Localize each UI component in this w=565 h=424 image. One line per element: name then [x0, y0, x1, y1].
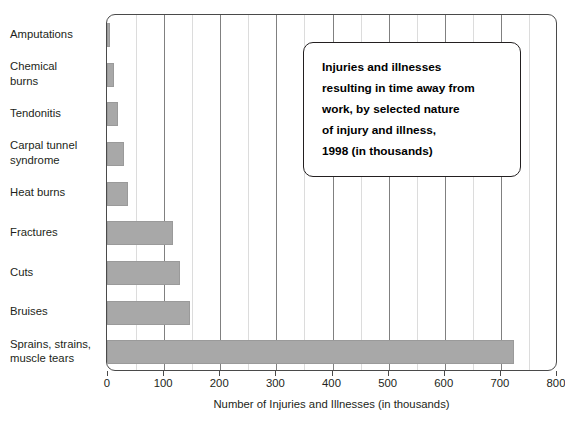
bar-row — [107, 182, 556, 206]
x-tick-700 — [500, 371, 501, 376]
x-tick-label-700: 700 — [490, 377, 509, 389]
bar-row — [107, 301, 556, 325]
bar — [107, 102, 118, 126]
bar-row — [107, 221, 556, 245]
x-tick-label-0: 0 — [104, 377, 110, 389]
bar — [107, 221, 173, 245]
bar — [107, 301, 190, 325]
bar-row — [107, 340, 556, 364]
bar — [107, 63, 114, 87]
category-label: Cuts — [10, 265, 106, 280]
category-label: Heat burns — [10, 185, 106, 200]
category-label: Tendonitis — [10, 106, 106, 121]
x-tick-label-800: 800 — [547, 377, 565, 389]
bar — [107, 142, 124, 166]
x-tick-400 — [332, 371, 333, 376]
x-tick-label-600: 600 — [434, 377, 453, 389]
bar — [107, 261, 180, 285]
x-tick-0 — [107, 371, 108, 376]
category-label: Sprains, strains, muscle tears — [10, 337, 106, 366]
bar — [107, 182, 128, 206]
x-tick-label-100: 100 — [154, 377, 173, 389]
x-tick-100 — [163, 371, 164, 376]
x-tick-300 — [275, 371, 276, 376]
chart-title-box: Injuries and illnessesresulting in time … — [303, 42, 521, 177]
x-axis-title: Number of Injuries and Illnesses (in tho… — [106, 398, 557, 410]
category-label: Bruises — [10, 304, 106, 319]
x-tick-500 — [388, 371, 389, 376]
x-axis-tick-labels: 0100200300400500600700800 — [0, 377, 561, 393]
x-tick-label-500: 500 — [378, 377, 397, 389]
chart-title-line-4: of injury and illness, — [322, 120, 502, 141]
category-axis-labels: AmputationsChemical burnsTendonitisCarpa… — [0, 14, 104, 371]
category-label: Fractures — [10, 225, 106, 240]
x-tick-label-300: 300 — [266, 377, 285, 389]
x-tick-600 — [444, 371, 445, 376]
x-tick-800 — [556, 371, 557, 376]
chart-title-line-3: work, by selected nature — [322, 99, 502, 120]
chart-title-line-1: Injuries and illnesses — [322, 57, 502, 78]
x-tick-label-400: 400 — [322, 377, 341, 389]
bar-row — [107, 261, 556, 285]
category-label: Carpal tunnel syndrome — [10, 138, 106, 167]
x-tick-label-200: 200 — [210, 377, 229, 389]
category-label: Amputations — [10, 27, 106, 42]
chart-title-line-2: resulting in time away from — [322, 78, 502, 99]
bar — [107, 340, 514, 364]
x-tick-200 — [219, 371, 220, 376]
chart-title-line-5: 1998 (in thousands) — [322, 141, 502, 162]
bar — [107, 23, 110, 47]
category-label: Chemical burns — [10, 59, 106, 88]
